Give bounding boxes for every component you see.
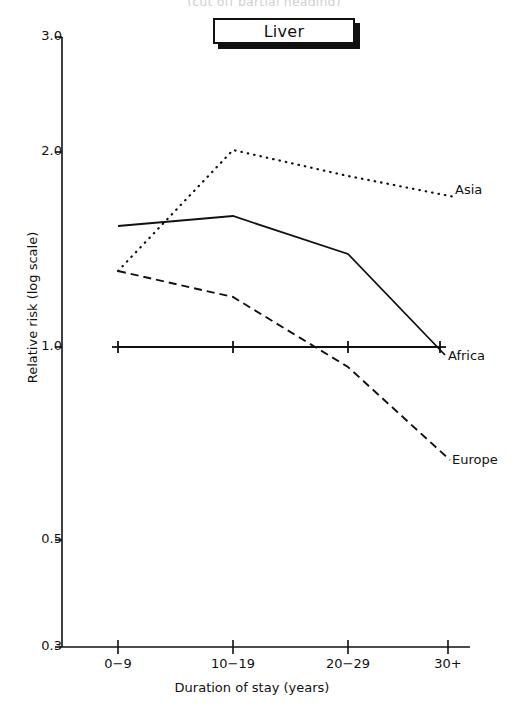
series-label-europe: Europe [452, 452, 498, 467]
chart-figure: (cut off partial heading) Liver Relative… [0, 0, 528, 715]
series-line-asia [118, 150, 455, 271]
reference-line-series [112, 341, 446, 353]
series-label-africa: Africa [448, 348, 485, 363]
series-line-europe [118, 271, 450, 460]
series-line-africa [118, 216, 445, 355]
series-label-asia: Asia [455, 182, 482, 197]
y-axis-ticks [55, 37, 62, 647]
